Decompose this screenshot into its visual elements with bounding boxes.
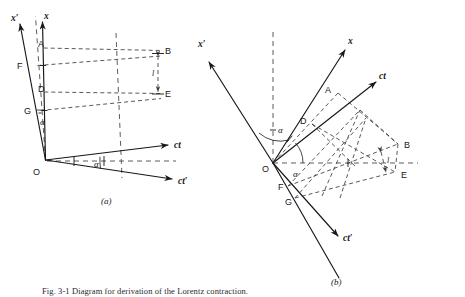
panel-a-dash-G-to-E <box>41 99 162 111</box>
panel-b-length-l-arrow <box>381 152 386 172</box>
panel-b-caption-label: (b) <box>331 277 342 287</box>
panel-b-dash-G-to-E <box>295 172 395 198</box>
panel-a-label-E: E <box>165 89 171 99</box>
panel-b-label-A: A <box>325 85 331 95</box>
panel-b-label-x: x <box>347 36 353 46</box>
panel-a-angle-arc-bottom <box>100 157 101 169</box>
panel-b-angle-arc-upper <box>259 133 289 141</box>
panel-b-dash-G-up <box>295 118 366 198</box>
panel-a-label-F: F <box>17 61 23 71</box>
panel-a-label-x-prime: x′ <box>10 13 19 23</box>
panel-a-far-vertical-dashed <box>116 33 122 178</box>
panel-b-dash-A-to-O <box>273 93 338 163</box>
panel-b-label-ct: ct <box>379 71 386 81</box>
panel-a-label-length-l: l <box>152 69 155 78</box>
panel-a-dash-F-to-B <box>38 56 162 66</box>
panel-b-dash-lower-fan-2 <box>322 110 360 196</box>
panel-b-label-alpha-upper: α <box>278 125 283 135</box>
figure-page: x′ x ct ct′ A F D G B E O α α l (a) <box>0 0 465 297</box>
panel-b-label-length-l: l <box>387 156 390 165</box>
panel-b-ct-prime-axis-line <box>273 163 338 236</box>
panel-b-label-ct-prime: ct′ <box>343 233 353 243</box>
relativity-spacetime-figure: x′ x ct ct′ A F D G B E O α α l (a) <box>0 0 465 297</box>
panel-a-ct-prime-axis-line <box>46 160 173 179</box>
panel-a-ct-axis-line <box>46 145 169 160</box>
panel-a-dash-D-to-E-level <box>44 92 161 94</box>
panel-a-caption-label: (a) <box>101 196 112 206</box>
panel-a-label-G: G <box>24 106 31 116</box>
panel-b-label-B: B <box>404 140 410 150</box>
panel-a-label-alpha-top: α <box>40 117 45 127</box>
panel-a-label-B: B <box>165 46 171 56</box>
panel-a-label-ct-prime: ct′ <box>178 176 188 186</box>
panel-b-group: x′ x ct ct′ A D F G B E O α α l (b) <box>197 28 418 287</box>
panel-b-label-G: G <box>285 197 292 207</box>
panel-b-label-E: E <box>401 170 407 180</box>
panel-a-label-ct: ct <box>174 140 181 150</box>
panel-b-label-alpha-lower: α <box>293 169 298 179</box>
panel-b-label-O: O <box>262 164 269 174</box>
panel-a-label-O: O <box>33 167 40 177</box>
panel-b-label-D: D <box>300 116 307 126</box>
figure-caption: Fig. 3-1 Diagram for derivation of the L… <box>42 286 248 296</box>
panel-b-label-x-prime: x′ <box>197 39 206 49</box>
panel-b-label-F: F <box>278 182 284 192</box>
panel-a-label-x: x <box>43 11 49 21</box>
panel-b-x-prime-axis-line <box>209 62 273 163</box>
panel-a-dash-A-to-B-level <box>44 48 161 51</box>
panel-a-label-alpha-bottom: α <box>94 159 99 169</box>
panel-b-angle-arc-lower <box>296 143 304 163</box>
panel-a-group: x′ x ct ct′ A F D G B E O α α l (a) <box>10 11 188 206</box>
panel-a-label-D: D <box>38 84 45 94</box>
panel-b-dash-F-to-B <box>288 144 398 186</box>
panel-b-dash-A-to-B <box>338 93 398 144</box>
panel-b-dash-B-to-E <box>395 144 398 172</box>
panel-a-label-A: A <box>38 39 44 49</box>
panel-b-dash-upper-corner-to-B <box>360 110 398 144</box>
